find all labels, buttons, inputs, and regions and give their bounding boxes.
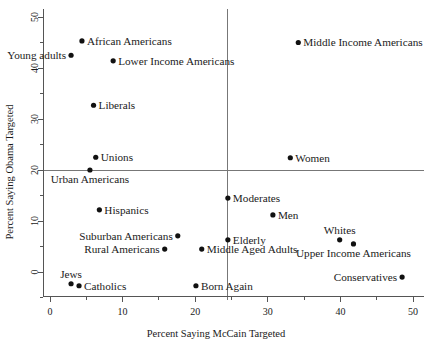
data-point-label: Hispanics	[104, 204, 148, 216]
data-point	[175, 233, 180, 238]
y-tick-label: 10	[29, 216, 40, 226]
data-point	[199, 246, 204, 251]
data-point	[91, 103, 96, 108]
data-point	[111, 58, 116, 63]
data-point-label: Rural Americans	[84, 243, 160, 255]
y-tick-label: 20	[29, 165, 40, 175]
x-tick-label: 0	[48, 306, 53, 317]
x-tick-label: 20	[190, 306, 200, 317]
data-point-label: African Americans	[87, 35, 172, 47]
data-point	[288, 155, 293, 160]
data-point-label: Middle Aged Adults	[207, 243, 298, 255]
x-tick-label: 10	[118, 306, 128, 317]
data-point	[87, 167, 92, 172]
data-point	[400, 275, 405, 280]
y-tick-label: 30	[29, 114, 40, 124]
data-point-label: Young adults	[7, 49, 66, 61]
data-point-label: Liberals	[99, 99, 136, 111]
x-tick-label: 40	[335, 306, 345, 317]
data-point-label: Born Again	[201, 280, 253, 292]
data-point	[337, 237, 342, 242]
scatter-plot-canvas: 0102030405001020304050 African Americans…	[0, 0, 432, 349]
data-point-label: Suburban Americans	[79, 230, 173, 242]
y-axis-title: Percent Saying Obama Targeted	[4, 104, 15, 240]
scatter-plot-figure: 0102030405001020304050 African Americans…	[0, 0, 432, 349]
data-point-label: Whites	[324, 224, 356, 236]
data-point-label: Unions	[101, 151, 133, 163]
data-point-label: Moderates	[233, 192, 280, 204]
y-tick-label: 40	[29, 63, 40, 73]
data-point	[68, 281, 73, 286]
data-point-label: Women	[295, 152, 330, 164]
data-point-label: Upper Income Americans	[296, 247, 411, 259]
data-point	[68, 53, 73, 58]
data-point	[351, 241, 356, 246]
x-axis-title: Percent Saying McCain Targeted	[147, 328, 286, 339]
data-point	[225, 237, 230, 242]
data-point	[79, 38, 84, 43]
x-tick-label: 50	[408, 306, 418, 317]
data-point	[97, 207, 102, 212]
data-point-label: Conservatives	[334, 271, 397, 283]
data-point-label: Catholics	[84, 280, 126, 292]
data-point	[93, 155, 98, 160]
data-point	[270, 212, 275, 217]
data-point-label: Middle Income Americans	[303, 36, 422, 48]
data-point-label: Jews	[60, 268, 82, 280]
axis-titles-group: Percent Saying McCain Targeted Percent S…	[4, 104, 286, 339]
data-point-label: Men	[278, 209, 299, 221]
y-tick-label: 50	[29, 12, 40, 22]
x-tick-label: 30	[263, 306, 273, 317]
data-point	[76, 283, 81, 288]
data-point	[162, 246, 167, 251]
point-labels-group: African AmericansYoung adultsLower Incom…	[7, 35, 422, 292]
y-tick-label: 0	[29, 270, 40, 275]
data-point-label: Urban Americans	[51, 173, 130, 185]
data-point	[193, 283, 198, 288]
data-point-label: Lower Income Americans	[118, 55, 234, 67]
data-point	[225, 195, 230, 200]
figure-caption-fragment	[0, 341, 432, 349]
data-point	[296, 40, 301, 45]
